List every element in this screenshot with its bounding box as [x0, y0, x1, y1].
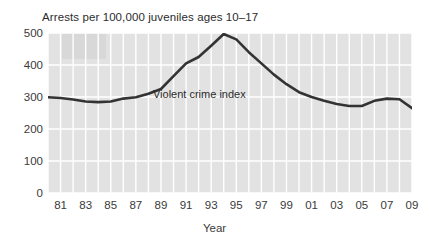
x-axis-title: Year [0, 222, 429, 234]
violent-crime-index-chart: Arrests per 100,000 juveniles ages 10–17… [0, 0, 429, 251]
x-axis-tick-labels: 818385878991939597990103050709 [0, 0, 429, 251]
x-axis-tick-label: 09 [406, 199, 419, 211]
x-axis-tick-label: 85 [104, 199, 117, 211]
x-axis-tick-label: 01 [305, 199, 318, 211]
x-axis-tick-label: 99 [280, 199, 293, 211]
x-axis-tick-label: 03 [330, 199, 343, 211]
x-axis-tick-label: 81 [54, 199, 67, 211]
x-axis-tick-label: 95 [230, 199, 243, 211]
x-axis-tick-label: 83 [79, 199, 92, 211]
x-axis-tick-label: 93 [205, 199, 218, 211]
x-axis-tick-label: 07 [380, 199, 393, 211]
x-axis-tick-label: 05 [355, 199, 368, 211]
x-axis-tick-label: 89 [155, 199, 168, 211]
x-axis-tick-label: 87 [129, 199, 142, 211]
x-axis-tick-label: 91 [180, 199, 193, 211]
x-axis-tick-label: 97 [255, 199, 268, 211]
